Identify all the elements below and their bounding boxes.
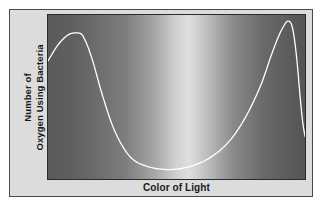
y-axis-label-line-1: Number of [22,44,34,150]
y-axis-label-text: Number of Oxygen Using Bacteria [22,44,45,150]
curve-polyline [48,21,305,170]
y-axis-label: Number of Oxygen Using Bacteria [20,14,46,180]
bacteria-distribution-curve [48,15,305,179]
y-axis-label-line-2: Oxygen Using Bacteria [33,44,45,150]
plot-area [47,14,306,180]
x-axis-label: Color of Light [47,182,306,193]
engelmann-experiment-figure: Number of Oxygen Using Bacteria Color of… [0,0,324,211]
figure-frame: Number of Oxygen Using Bacteria Color of… [9,9,313,197]
